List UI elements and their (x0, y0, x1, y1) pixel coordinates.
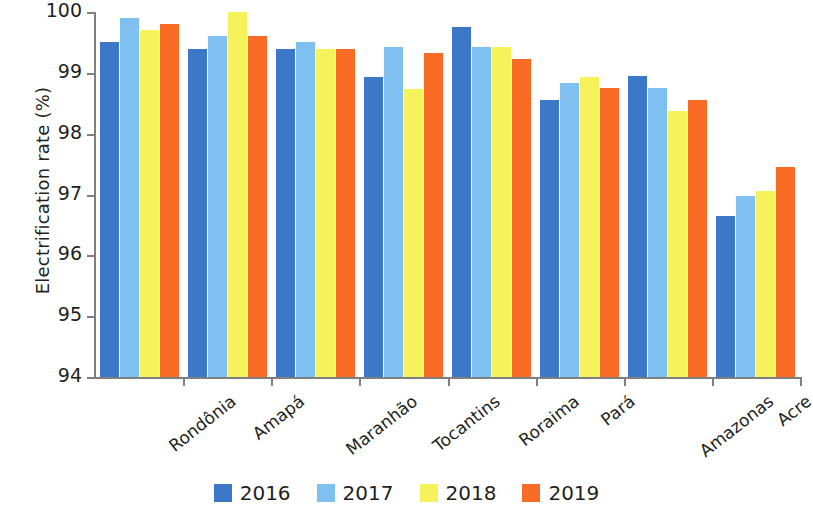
y-axis-tick-label: 100 (46, 0, 82, 21)
bar-amapá-2018[interactable] (228, 12, 247, 377)
x-axis-tick-mark (448, 377, 450, 386)
bar-tocantins-2016[interactable] (364, 77, 383, 377)
x-axis-label-maranhão: Maranhão (342, 391, 421, 459)
x-axis-tick-mark (536, 377, 538, 386)
y-axis-tick-label: 99 (58, 60, 82, 82)
bar-pará-2016[interactable] (540, 100, 559, 377)
y-axis-tick: 100 (0, 12, 95, 13)
bar-acre-2019[interactable] (776, 167, 795, 377)
bar-rondônia-2018[interactable] (140, 30, 159, 377)
bar-amapá-2016[interactable] (188, 49, 207, 378)
electrification-rate-bar-chart: Electrification rate (%) 949596979899100… (0, 0, 813, 509)
y-axis-tick-label: 96 (58, 242, 82, 264)
legend-item-2018[interactable]: 2018 (420, 481, 497, 505)
x-axis-label-acre: Acre (773, 391, 813, 430)
y-axis-tick-label: 98 (58, 121, 82, 143)
bar-group (540, 12, 619, 377)
bar-group (100, 12, 179, 377)
legend-swatch-icon (214, 484, 232, 502)
bar-group (188, 12, 267, 377)
legend-label: 2017 (343, 481, 394, 505)
bar-amazonas-2018[interactable] (668, 111, 687, 377)
legend-swatch-icon (522, 484, 540, 502)
x-axis-label-roraima: Roraima (515, 391, 583, 450)
y-axis-title: Electrification rate (%) (32, 31, 53, 351)
bar-maranhão-2016[interactable] (276, 49, 295, 378)
bar-amazonas-2017[interactable] (648, 88, 667, 377)
x-axis-tick-mark (359, 377, 361, 386)
bar-group (452, 12, 531, 377)
bar-pará-2017[interactable] (560, 83, 579, 377)
bar-tocantins-2018[interactable] (404, 89, 423, 377)
x-axis-label-pará: Pará (596, 391, 638, 430)
bar-tocantins-2017[interactable] (384, 47, 403, 377)
x-axis-tick-mark (800, 377, 802, 386)
bar-acre-2016[interactable] (716, 216, 735, 377)
legend-item-2019[interactable]: 2019 (522, 481, 599, 505)
y-axis-tick-mark (87, 195, 95, 197)
bar-group (716, 12, 795, 377)
bar-maranhão-2018[interactable] (316, 49, 335, 378)
y-axis-tick: 97 (0, 195, 95, 196)
bar-roraima-2019[interactable] (512, 59, 531, 377)
x-axis-label-tocantins: Tocantins (429, 391, 504, 456)
legend-swatch-icon (420, 484, 438, 502)
bar-group (364, 12, 443, 377)
y-axis-tick-label: 95 (58, 303, 82, 325)
bar-maranhão-2017[interactable] (296, 42, 315, 377)
legend-label: 2016 (240, 481, 291, 505)
y-axis-tick-mark (87, 12, 95, 14)
y-axis-tick: 95 (0, 316, 95, 317)
bar-maranhão-2019[interactable] (336, 49, 355, 378)
bar-amapá-2019[interactable] (248, 36, 267, 377)
bar-amapá-2017[interactable] (208, 36, 227, 377)
bar-tocantins-2019[interactable] (424, 53, 443, 377)
y-axis-tick: 96 (0, 255, 95, 256)
y-axis-tick-label: 97 (58, 182, 82, 204)
x-axis-tick-mark (183, 377, 185, 386)
y-axis-tick: 94 (0, 377, 95, 378)
bar-roraima-2016[interactable] (452, 27, 471, 377)
legend-swatch-icon (317, 484, 335, 502)
legend-label: 2019 (548, 481, 599, 505)
bar-rondônia-2017[interactable] (120, 18, 139, 377)
legend-item-2016[interactable]: 2016 (214, 481, 291, 505)
y-axis-tick: 98 (0, 134, 95, 135)
bar-pará-2019[interactable] (600, 88, 619, 377)
bar-roraima-2017[interactable] (472, 47, 491, 377)
chart-legend: 2016201720182019 (0, 481, 813, 505)
y-axis-tick: 99 (0, 73, 95, 74)
bar-rondônia-2016[interactable] (100, 42, 119, 377)
bar-rondônia-2019[interactable] (160, 24, 179, 377)
bar-roraima-2018[interactable] (492, 47, 511, 377)
legend-label: 2018 (446, 481, 497, 505)
bar-pará-2018[interactable] (580, 77, 599, 377)
y-axis-tick-mark (87, 316, 95, 318)
x-axis-label-amapá: Amapá (249, 391, 308, 444)
y-axis-tick-label: 94 (58, 364, 82, 386)
plot-area (95, 12, 800, 377)
y-axis-tick-mark (87, 377, 95, 379)
y-axis-tick-mark (87, 134, 95, 136)
bar-group (276, 12, 355, 377)
x-axis-tick-mark (712, 377, 714, 386)
x-axis-label-amazonas: Amazonas (695, 391, 777, 461)
bar-amazonas-2016[interactable] (628, 76, 647, 377)
bar-acre-2017[interactable] (736, 196, 755, 377)
x-axis-tick-mark (624, 377, 626, 386)
bar-acre-2018[interactable] (756, 191, 775, 377)
y-axis-tick-mark (87, 255, 95, 257)
y-axis-tick-mark (87, 73, 95, 75)
x-axis-label-rondônia: Rondônia (165, 391, 240, 456)
bar-group (628, 12, 707, 377)
legend-item-2017[interactable]: 2017 (317, 481, 394, 505)
x-axis-tick-mark (271, 377, 273, 386)
bar-amazonas-2019[interactable] (688, 100, 707, 377)
